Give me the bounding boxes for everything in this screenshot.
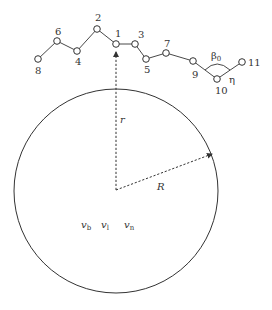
torsion-angle-label: η xyxy=(229,74,235,85)
label-10: 10 xyxy=(215,85,228,96)
v-b-label: vb xyxy=(81,219,92,232)
v-l-label: vl xyxy=(101,219,110,232)
monomer-8 xyxy=(35,56,42,63)
monomer-7 xyxy=(163,50,170,57)
label-2: 2 xyxy=(95,12,101,23)
monomer-5 xyxy=(143,56,150,63)
label-8: 8 xyxy=(35,65,41,76)
monomer-2 xyxy=(94,26,101,33)
label-9: 9 xyxy=(192,69,198,80)
monomer-11 xyxy=(239,59,246,66)
bond-angle-arc xyxy=(205,64,230,70)
bond-angle-label: β0 xyxy=(211,50,221,63)
node-labels: 8 6 4 2 1 3 5 7 9 10 11 xyxy=(35,12,261,96)
monomer-4 xyxy=(74,48,81,55)
monomer-1 xyxy=(113,41,120,48)
diagram-canvas: 8 6 4 2 1 3 5 7 9 10 11 β0 η r R vb vl v… xyxy=(0,0,272,310)
label-3: 3 xyxy=(138,29,144,40)
label-11: 11 xyxy=(248,57,261,68)
sphere-outline xyxy=(14,89,218,293)
monomer-10 xyxy=(214,76,221,83)
label-7: 7 xyxy=(164,38,170,49)
v-n-label: vn xyxy=(124,219,135,232)
label-5: 5 xyxy=(144,64,150,75)
monomer-9 xyxy=(190,58,197,65)
radius-R-label: R xyxy=(156,181,165,192)
monomer-3 xyxy=(132,41,139,48)
label-1: 1 xyxy=(115,28,121,39)
monomer-6 xyxy=(54,38,61,45)
label-6: 6 xyxy=(55,26,61,37)
label-4: 4 xyxy=(75,56,81,67)
distance-r-label: r xyxy=(120,114,126,125)
